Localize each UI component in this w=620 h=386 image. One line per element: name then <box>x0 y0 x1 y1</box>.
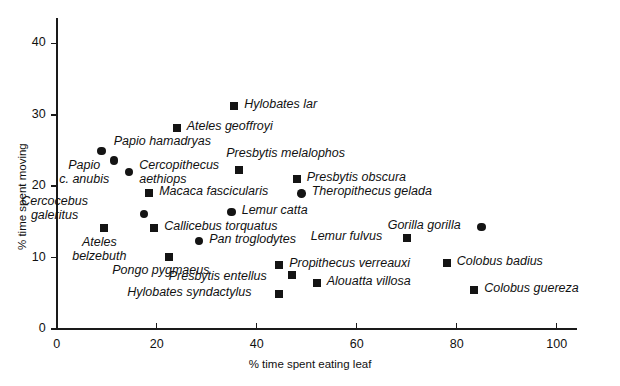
x-tick-100 <box>556 323 558 330</box>
data-point-label: Propithecus verreauxi <box>289 257 410 271</box>
data-point-marker <box>173 124 181 132</box>
data-point-label: Gorilla gorilla <box>388 219 461 233</box>
x-tick-label-80: 80 <box>437 337 477 351</box>
data-point-marker <box>477 223 486 232</box>
data-point-label: Presbytis entellus <box>169 270 267 284</box>
x-tick-40 <box>256 323 258 330</box>
data-point-marker <box>165 253 173 261</box>
y-tick-0 <box>51 328 58 330</box>
x-axis-title: % time spent eating leaf <box>0 358 620 370</box>
data-point-marker <box>235 166 243 174</box>
data-point-marker <box>230 102 238 110</box>
data-point-label: Atelesbelzebuth <box>72 235 126 263</box>
x-tick-20 <box>156 323 158 330</box>
data-point-label: Pan troglodytes <box>209 233 296 247</box>
data-point-marker <box>227 208 236 217</box>
x-tick-80 <box>456 323 458 330</box>
y-tick-label-0: 0 <box>9 321 46 335</box>
data-point-marker <box>313 279 321 287</box>
y-tick-label-40: 40 <box>9 35 46 49</box>
data-point-label: Macaca fascicularis <box>159 185 268 199</box>
y-tick-10 <box>51 257 58 259</box>
y-axis-line <box>56 18 58 329</box>
data-point-marker <box>150 224 158 232</box>
data-point-label: Colobus badius <box>457 255 543 269</box>
data-point-label: Lemur catta <box>242 204 308 218</box>
data-point-label: Cercocebusgaleritus <box>21 194 88 222</box>
data-point-label: Presbytis obscura <box>307 171 406 185</box>
x-axis-line <box>57 328 577 330</box>
y-tick-30 <box>51 114 58 116</box>
x-tick-label-40: 40 <box>237 337 277 351</box>
y-tick-40 <box>51 43 58 45</box>
data-point-marker <box>145 189 153 197</box>
data-point-label: Presbytis melalophos <box>226 147 345 161</box>
data-point-marker <box>470 286 478 294</box>
data-point-marker <box>297 189 306 198</box>
plot-area: 020406080100010203040% time spent eating… <box>0 0 620 386</box>
data-point-marker <box>288 271 296 279</box>
data-point-label: Hylobates lar <box>244 98 317 112</box>
data-point-marker <box>195 237 204 246</box>
data-point-label: Colobus guereza <box>484 282 579 296</box>
data-point-label: Papio hamadryas <box>114 135 211 149</box>
data-point-marker <box>125 168 134 177</box>
data-point-label: Ateles geoffroyi <box>187 120 273 134</box>
data-point-marker <box>403 234 411 242</box>
x-tick-label-60: 60 <box>337 337 377 351</box>
x-tick-label-20: 20 <box>137 337 177 351</box>
data-point-marker <box>443 259 451 267</box>
data-point-label: Callicebus torquatus <box>164 220 277 234</box>
y-tick-label-30: 30 <box>9 107 46 121</box>
data-point-marker <box>275 290 283 298</box>
data-point-label: Alouatta villosa <box>327 275 411 289</box>
data-point-label: Cercopithecusaethiops <box>139 158 219 186</box>
data-point-label: Lemur fulvus <box>311 230 383 244</box>
y-tick-label-10: 10 <box>9 250 46 264</box>
data-point-label: Papioc. anubis <box>59 158 109 186</box>
y-tick-20 <box>51 185 58 187</box>
data-point-label: Theropithecus gelada <box>312 185 432 199</box>
x-tick-label-100: 100 <box>537 337 577 351</box>
data-point-marker <box>97 147 106 156</box>
x-tick-label-0: 0 <box>37 337 77 351</box>
data-point-label: Hylobates syndactylus <box>127 286 251 300</box>
scatter-plot-figure: 020406080100010203040% time spent eating… <box>0 0 620 386</box>
data-point-marker <box>293 175 301 183</box>
data-point-marker <box>275 261 283 269</box>
data-point-marker <box>100 224 108 232</box>
data-point-marker <box>110 156 119 165</box>
data-point-marker <box>140 210 149 219</box>
x-tick-60 <box>356 323 358 330</box>
